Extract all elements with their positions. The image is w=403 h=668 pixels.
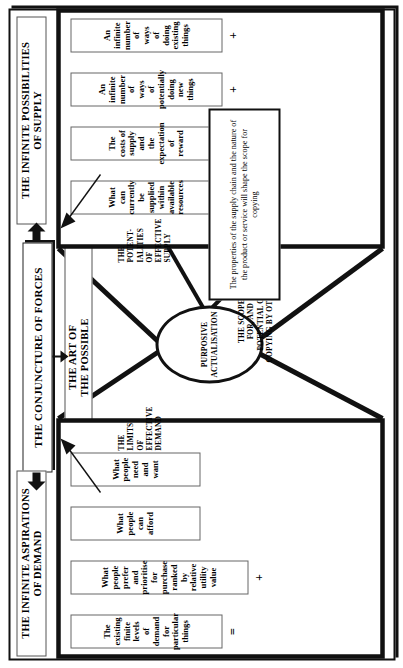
center-node-line1: PURPOSIVE (199, 321, 209, 367)
supply-item-1: An infinite number of ways of doing exis… (70, 18, 222, 52)
header-infinite-aspirations-of-demand: THE INFINITE ASPIRATIONS OF DEMAND (16, 470, 46, 656)
demand-operator-2: + (252, 560, 264, 594)
title-conjuncture-of-forces: THE CONJUNCTURE OF FORCES (22, 242, 52, 472)
diagram-canvas: THE CONJUNCTURE OF FORCES THE ART OF THE… (0, 0, 403, 668)
demand-operator-1: = (226, 614, 238, 648)
rotated-diagram-layer: THE CONJUNCTURE OF FORCES THE ART OF THE… (0, 0, 403, 668)
supply-operator-2: + (226, 72, 238, 106)
center-node-line2: ACTUALISATION (209, 311, 219, 377)
arrow-diagonal-to-demand-header (58, 436, 104, 496)
supply-item-3: The costs of supply and the expectation … (70, 126, 222, 160)
arrow-art-to-supply (26, 222, 46, 240)
label-limits-of-effective-demand: THE LIMITS OF EFFECTIVE DEMAND (116, 406, 162, 450)
note-copying-scope: The properties of the supply chain and t… (208, 108, 280, 300)
arrow-art-to-demand (26, 472, 46, 490)
label-potentialities-of-effective-supply: THE POTENT- IALITIES OF EFFECTIVE SUPPLY (116, 218, 172, 262)
demand-item-2: What people prefer and prioritise for pu… (70, 560, 248, 594)
demand-group: The existing finite levels of demand for… (56, 418, 384, 658)
demand-item-3: What people can afford (70, 506, 200, 540)
note-copying-scope-text: The properties of the supply chain and t… (228, 116, 260, 292)
supply-item-2: An infinite number of ways of potentiall… (70, 72, 222, 106)
arrow-conjuncture-to-art (52, 344, 68, 368)
header-infinite-possibilities-of-supply: THE INFINITE POSSIBILITIES OF SUPPLY (16, 16, 46, 224)
demand-item-1: The existing finite levels of demand for… (70, 614, 222, 648)
supply-operator-1: + (226, 18, 238, 52)
arrow-diagonal-to-supply-header (58, 170, 104, 230)
